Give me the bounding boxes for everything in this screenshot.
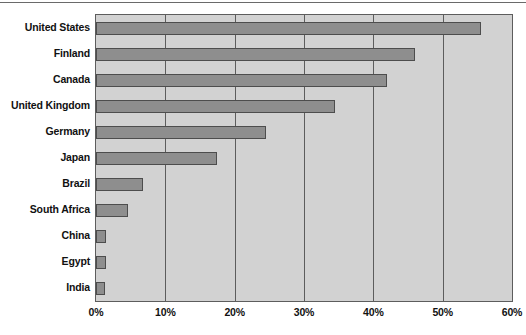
- x-tick-label-20pct: 20%: [224, 306, 244, 318]
- bar-row: [96, 93, 512, 119]
- bar-china: [96, 230, 106, 243]
- category-label-united-kingdom: United Kingdom: [0, 92, 90, 118]
- category-label-egypt: Egypt: [0, 248, 90, 274]
- bar-united-states: [96, 22, 481, 35]
- x-tick-label-50pct: 50%: [432, 306, 452, 318]
- category-label-canada: Canada: [0, 66, 90, 92]
- category-label-brazil: Brazil: [0, 170, 90, 196]
- x-tick-label-40pct: 40%: [363, 306, 383, 318]
- bar-finland: [96, 48, 415, 61]
- top-divider-rule: [0, 2, 526, 3]
- bar-south-africa: [96, 204, 128, 217]
- bar-india: [96, 282, 105, 295]
- bar-row: [96, 275, 512, 301]
- bar-row: [96, 145, 512, 171]
- bar-canada: [96, 74, 387, 87]
- x-tick-label-60pct: 60%: [502, 306, 522, 318]
- category-label-united-states: United States: [0, 14, 90, 40]
- x-tick-label-10pct: 10%: [155, 306, 175, 318]
- value-axis-labels: 0%10%20%30%40%50%60%: [0, 306, 526, 326]
- bar-row: [96, 171, 512, 197]
- x-tick-label-0pct: 0%: [89, 306, 104, 318]
- category-label-south-africa: South Africa: [0, 196, 90, 222]
- bar-row: [96, 197, 512, 223]
- bar-row: [96, 15, 512, 41]
- bar-row: [96, 67, 512, 93]
- bar-row: [96, 223, 512, 249]
- category-label-china: China: [0, 222, 90, 248]
- bar-row: [96, 41, 512, 67]
- category-label-india: India: [0, 274, 90, 300]
- x-tick-label-30pct: 30%: [294, 306, 314, 318]
- category-label-finland: Finland: [0, 40, 90, 66]
- category-label-japan: Japan: [0, 144, 90, 170]
- category-axis-labels: United StatesFinlandCanadaUnited Kingdom…: [0, 14, 90, 302]
- bar-united-kingdom: [96, 100, 335, 113]
- plot-area: [95, 14, 513, 302]
- bar-germany: [96, 126, 266, 139]
- bar-rows: [96, 15, 512, 301]
- bar-row: [96, 119, 512, 145]
- bar-chart: United StatesFinlandCanadaUnited Kingdom…: [0, 0, 526, 335]
- bar-egypt: [96, 256, 106, 269]
- category-label-germany: Germany: [0, 118, 90, 144]
- bar-brazil: [96, 178, 143, 191]
- bar-japan: [96, 152, 217, 165]
- bar-row: [96, 249, 512, 275]
